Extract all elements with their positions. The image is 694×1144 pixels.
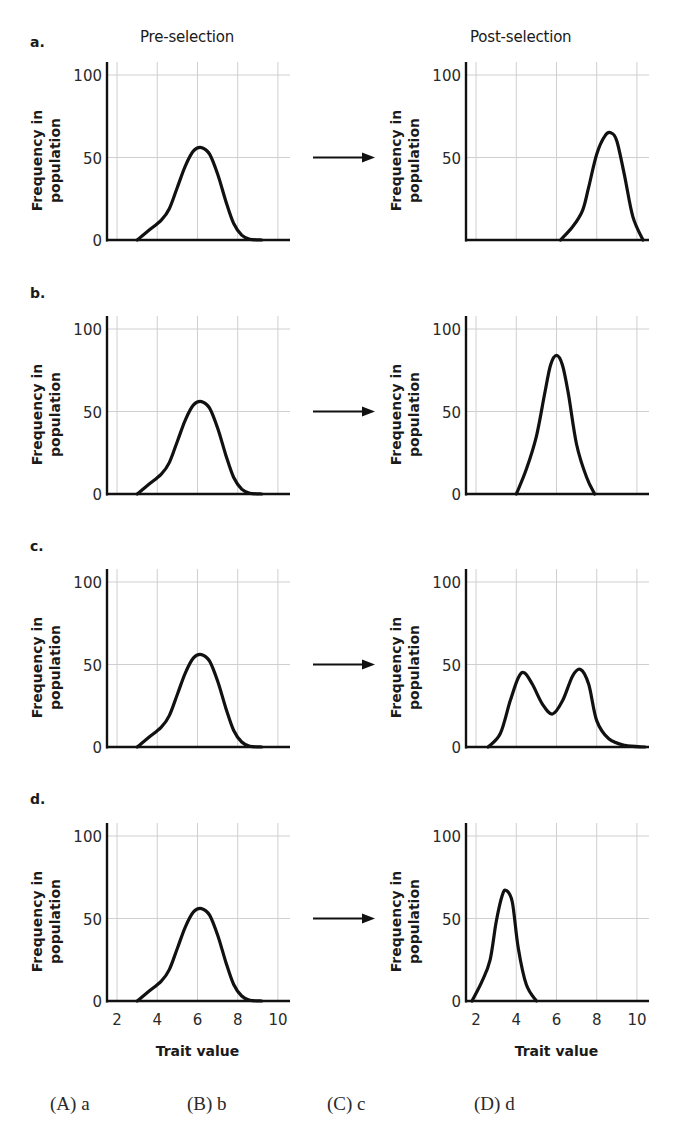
y-tick-label: 0: [451, 486, 461, 504]
distribution-curve: [137, 654, 262, 747]
distribution-curve: [137, 401, 262, 494]
x-tick-label: 2: [471, 1011, 481, 1029]
chart-d-pre: 100500Frequency inpopulation246810Trait …: [29, 823, 290, 1059]
choice-a[interactable]: (A) a: [50, 1093, 90, 1115]
y-tick-label: 100: [432, 828, 461, 846]
x-tick-label: 6: [552, 1011, 562, 1029]
answer-choices: (A) a (B) b (C) c (D) d: [0, 1093, 694, 1123]
chart-a-pre: 100500Frequency inpopulation: [29, 62, 290, 250]
choice-d[interactable]: (D) d: [474, 1093, 515, 1115]
x-axis-title: Trait value: [156, 1043, 240, 1059]
y-axis-title: Frequency inpopulation: [388, 110, 422, 212]
y-tick-label: 50: [442, 911, 461, 929]
y-tick-label: 100: [73, 574, 102, 592]
arrow-right-icon: [313, 407, 375, 417]
distribution-curve: [488, 669, 645, 747]
x-tick-label: 2: [112, 1011, 122, 1029]
chart-c-post: 100500Frequency inpopulation: [388, 569, 649, 757]
y-tick-label: 50: [83, 911, 102, 929]
distribution-curve: [472, 890, 536, 1001]
chart-c-pre: 100500Frequency inpopulation: [29, 569, 290, 757]
y-axis-title: Frequency inpopulation: [388, 364, 422, 466]
y-tick-label: 0: [92, 486, 102, 504]
y-tick-label: 100: [432, 574, 461, 592]
y-tick-label: 100: [432, 67, 461, 85]
x-tick-label: 10: [627, 1011, 646, 1029]
y-axis-title: Frequency inpopulation: [388, 871, 422, 973]
chart-d-post: 100500Frequency inpopulation246810Trait …: [388, 823, 649, 1059]
y-axis-title: Frequency inpopulation: [29, 617, 63, 719]
x-tick-label: 8: [233, 1011, 243, 1029]
x-tick-label: 8: [592, 1011, 602, 1029]
y-tick-label: 100: [432, 321, 461, 339]
y-tick-label: 100: [73, 828, 102, 846]
x-tick-label: 4: [512, 1011, 522, 1029]
x-tick-label: 4: [153, 1011, 163, 1029]
y-tick-label: 0: [451, 993, 461, 1011]
arrow-right-icon: [313, 660, 375, 670]
y-axis-title: Frequency inpopulation: [29, 364, 63, 466]
y-axis-title: Frequency inpopulation: [29, 871, 63, 973]
distribution-curve: [137, 908, 262, 1001]
y-tick-label: 50: [442, 404, 461, 422]
y-tick-label: 0: [92, 232, 102, 250]
arrow-right-icon: [313, 153, 375, 163]
chart-b-post: 100500Frequency inpopulation: [388, 316, 649, 504]
y-tick-label: 100: [73, 67, 102, 85]
y-tick-label: 50: [83, 404, 102, 422]
selection-charts: 100500Frequency inpopulation10050Frequen…: [0, 0, 694, 1144]
chart-b-pre: 100500Frequency inpopulation: [29, 316, 290, 504]
chart-a-post: 10050Frequency inpopulation: [388, 62, 649, 242]
choice-c[interactable]: (C) c: [327, 1093, 366, 1115]
x-tick-label: 10: [268, 1011, 287, 1029]
y-tick-label: 0: [92, 993, 102, 1011]
y-tick-label: 50: [83, 150, 102, 168]
y-axis-title: Frequency inpopulation: [29, 110, 63, 212]
x-tick-label: 6: [193, 1011, 203, 1029]
distribution-curve: [137, 147, 262, 240]
y-tick-label: 100: [73, 321, 102, 339]
y-axis-title: Frequency inpopulation: [388, 617, 422, 719]
y-tick-label: 0: [451, 739, 461, 757]
choice-b[interactable]: (B) b: [187, 1093, 227, 1115]
distribution-curve: [561, 132, 644, 240]
y-tick-label: 50: [83, 657, 102, 675]
distribution-curve: [516, 355, 594, 494]
y-tick-label: 0: [92, 739, 102, 757]
y-tick-label: 50: [442, 657, 461, 675]
y-tick-label: 50: [442, 150, 461, 168]
arrow-right-icon: [313, 914, 375, 924]
x-axis-title: Trait value: [515, 1043, 599, 1059]
